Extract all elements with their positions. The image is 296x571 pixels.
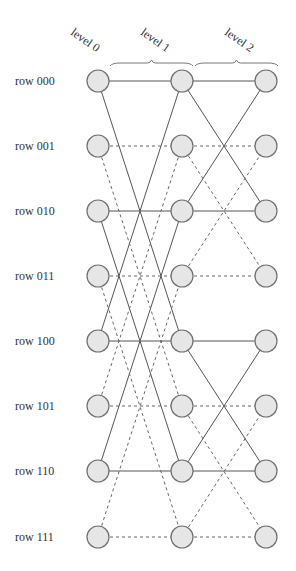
node-level2-row1: [255, 135, 277, 157]
node-level2-row0: [255, 70, 277, 92]
level-labels: level 0level 1level 2: [68, 25, 257, 55]
row-label-2: row 010: [15, 204, 55, 218]
node-level1-row6: [171, 460, 193, 482]
row-label-6: row 110: [15, 464, 54, 478]
brace-level-0-to-1: [110, 60, 193, 66]
node-level2-row2: [255, 200, 277, 222]
node-level0-row5: [87, 395, 109, 417]
node-level0-row3: [87, 265, 109, 287]
node-level1-row7: [171, 526, 193, 548]
row-label-3: row 011: [15, 269, 54, 283]
level-label-0: level 0: [68, 25, 103, 55]
level-label-1: level 1: [138, 25, 173, 55]
row-labels: row 000row 001row 010row 011row 100row 1…: [15, 74, 55, 544]
level-braces: [110, 60, 278, 66]
node-level1-row1: [171, 135, 193, 157]
node-level0-row4: [87, 330, 109, 352]
node-level2-row3: [255, 265, 277, 287]
row-label-5: row 101: [15, 399, 55, 413]
node-level0-row1: [87, 135, 109, 157]
butterfly-diagram: level 0level 1level 2 row 000row 001row …: [0, 0, 296, 571]
node-level1-row4: [171, 330, 193, 352]
node-level1-row5: [171, 395, 193, 417]
node-level2-row5: [255, 395, 277, 417]
node-level2-row7: [255, 526, 277, 548]
node-level1-row3: [171, 265, 193, 287]
node-level2-row4: [255, 330, 277, 352]
node-level0-row7: [87, 526, 109, 548]
level-label-2: level 2: [222, 25, 257, 55]
row-label-1: row 001: [15, 139, 55, 153]
row-label-0: row 000: [15, 74, 55, 88]
nodes: [87, 70, 277, 548]
node-level1-row2: [171, 200, 193, 222]
node-level0-row2: [87, 200, 109, 222]
node-level0-row6: [87, 460, 109, 482]
node-level2-row6: [255, 460, 277, 482]
row-label-4: row 100: [15, 334, 55, 348]
node-level1-row0: [171, 70, 193, 92]
node-level0-row0: [87, 70, 109, 92]
row-label-7: row 111: [15, 530, 54, 544]
brace-level-1-to-2: [195, 60, 278, 66]
